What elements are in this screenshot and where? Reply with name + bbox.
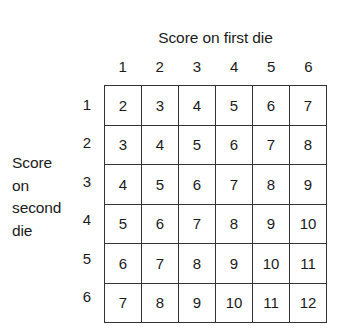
row-header-6: 6: [76, 278, 98, 317]
cell-r2-c1: 3: [105, 125, 142, 165]
row-header-5: 5: [76, 239, 98, 278]
column-header-2: 2: [141, 56, 178, 78]
cell-r2-c5: 7: [253, 125, 290, 165]
column-header-5: 5: [253, 56, 290, 78]
cell-r4-c3: 7: [179, 204, 216, 244]
cell-r2-c4: 6: [216, 125, 253, 165]
cell-r2-c2: 4: [142, 125, 179, 165]
cell-r5-c5: 10: [253, 244, 290, 284]
cell-r1-c3: 4: [179, 86, 216, 126]
column-header-row: 1 2 3 4 5 6: [104, 56, 327, 78]
cell-r6-c6: 12: [290, 283, 327, 323]
row-header-column: 1 2 3 4 5 6: [76, 85, 98, 316]
dice-sum-table: 2 3 4 5 6 7 3 4 5 6 7 8 4 5 6 7 8 9: [104, 85, 327, 323]
column-header-6: 6: [290, 56, 327, 78]
row-axis-title-line-4: die: [12, 220, 74, 243]
cell-r4-c4: 8: [216, 204, 253, 244]
cell-r3-c3: 6: [179, 165, 216, 205]
cell-r3-c4: 7: [216, 165, 253, 205]
row-header-3: 3: [76, 162, 98, 201]
cell-r4-c5: 9: [253, 204, 290, 244]
cell-r6-c5: 11: [253, 283, 290, 323]
cell-r3-c5: 8: [253, 165, 290, 205]
cell-r1-c5: 6: [253, 86, 290, 126]
table-row: 7 8 9 10 11 12: [105, 283, 327, 323]
cell-r1-c2: 3: [142, 86, 179, 126]
cell-r6-c4: 10: [216, 283, 253, 323]
row-header-4: 4: [76, 201, 98, 240]
cell-r5-c2: 7: [142, 244, 179, 284]
cell-r1-c1: 2: [105, 86, 142, 126]
column-header-3: 3: [178, 56, 215, 78]
cell-r4-c2: 6: [142, 204, 179, 244]
row-header-1: 1: [76, 85, 98, 124]
cell-r5-c4: 9: [216, 244, 253, 284]
table-row: 5 6 7 8 9 10: [105, 204, 327, 244]
cell-r2-c6: 8: [290, 125, 327, 165]
cell-r4-c6: 10: [290, 204, 327, 244]
cell-r1-c6: 7: [290, 86, 327, 126]
row-axis-title: Score on second die: [12, 152, 74, 242]
row-axis-title-line-1: Score: [12, 152, 74, 175]
cell-r3-c1: 4: [105, 165, 142, 205]
cell-r3-c6: 9: [290, 165, 327, 205]
row-axis-title-line-3: second: [12, 197, 74, 220]
table-row: 4 5 6 7 8 9: [105, 165, 327, 205]
table-row: 3 4 5 6 7 8: [105, 125, 327, 165]
cell-r6-c3: 9: [179, 283, 216, 323]
table-row: 6 7 8 9 10 11: [105, 244, 327, 284]
dice-sum-figure: Score on first die 1 2 3 4 5 6 Score on …: [0, 0, 341, 334]
cell-r6-c1: 7: [105, 283, 142, 323]
row-axis-title-line-2: on: [12, 175, 74, 198]
column-axis-title: Score on first die: [104, 29, 327, 47]
cell-r1-c4: 5: [216, 86, 253, 126]
cell-r2-c3: 5: [179, 125, 216, 165]
column-header-4: 4: [216, 56, 253, 78]
row-header-2: 2: [76, 124, 98, 163]
cell-r5-c3: 8: [179, 244, 216, 284]
cell-r3-c2: 5: [142, 165, 179, 205]
cell-r6-c2: 8: [142, 283, 179, 323]
cell-r5-c6: 11: [290, 244, 327, 284]
column-header-1: 1: [104, 56, 141, 78]
cell-r5-c1: 6: [105, 244, 142, 284]
table-row: 2 3 4 5 6 7: [105, 86, 327, 126]
cell-r4-c1: 5: [105, 204, 142, 244]
